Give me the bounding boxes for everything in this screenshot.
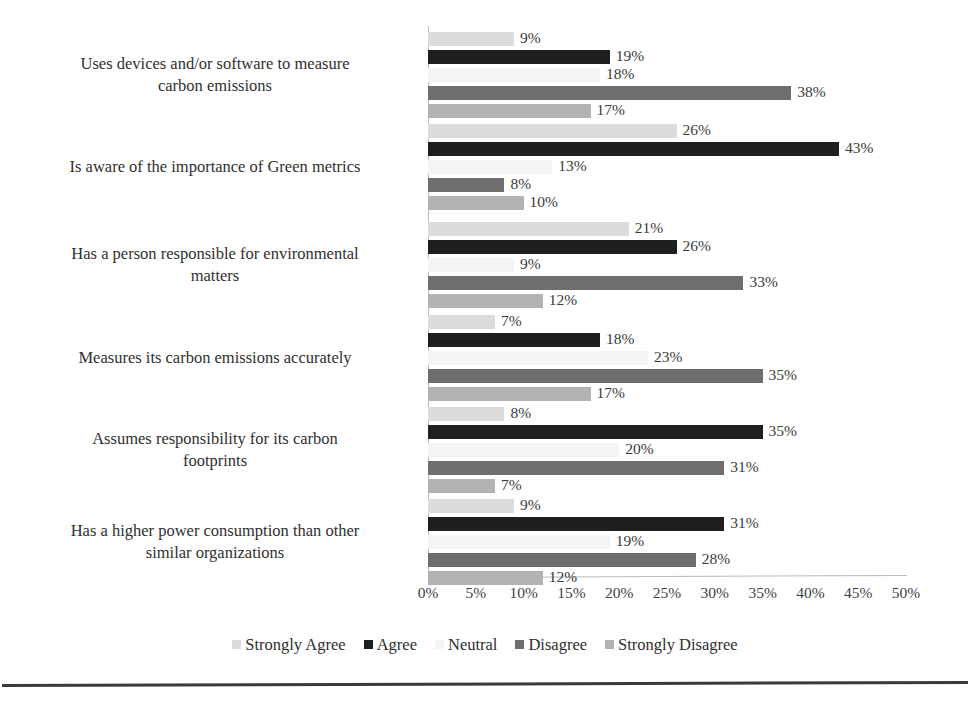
bar-strongly-agree[interactable]	[428, 315, 495, 329]
bar-row: 9%	[428, 499, 906, 513]
bar-disagree[interactable]	[428, 178, 504, 192]
bar-value-label: 31%	[724, 458, 758, 476]
x-tick-label: 25%	[653, 584, 681, 602]
x-tick-label: 35%	[748, 584, 776, 602]
category-label-line: footprints	[20, 450, 410, 472]
legend-swatch-icon	[364, 640, 373, 649]
legend-item-disagree[interactable]: Disagree	[515, 634, 587, 655]
x-axis-tick-labels: 0%5%10%15%20%25%30%35%40%45%50%	[428, 584, 907, 606]
bar-strongly-disagree[interactable]	[428, 479, 495, 493]
bar-row: 33%	[428, 276, 906, 290]
bar-group: 7%18%23%35%17%	[428, 315, 906, 405]
category-label: Assumes responsibility for its carbonfoo…	[20, 428, 410, 472]
legend-label: Disagree	[528, 635, 587, 655]
bar-disagree[interactable]	[428, 461, 724, 475]
category-label-line: carbon emissions	[20, 75, 410, 97]
bar-disagree[interactable]	[428, 369, 763, 383]
bar-row: 28%	[428, 553, 906, 567]
x-tick-label: 50%	[892, 584, 920, 602]
bar-value-label: 18%	[600, 65, 634, 83]
bar-row: 43%	[428, 142, 906, 156]
bar-row: 35%	[428, 425, 906, 439]
bar-agree[interactable]	[428, 240, 677, 254]
bar-strongly-disagree[interactable]	[428, 196, 524, 210]
bar-value-label: 38%	[791, 83, 825, 101]
plot-area: 9%19%18%38%17%26%43%13%8%10%21%26%9%33%1…	[428, 26, 906, 577]
category-label-line: Measures its carbon emissions accurately	[20, 347, 410, 369]
bar-value-label: 10%	[524, 193, 558, 211]
category-label-line: Is aware of the importance of Green metr…	[20, 156, 410, 178]
bar-neutral[interactable]	[428, 258, 514, 272]
legend-label: Agree	[377, 635, 417, 655]
bar-strongly-disagree[interactable]	[428, 104, 591, 118]
bar-agree[interactable]	[428, 517, 724, 531]
chart-legend: Strongly AgreeAgreeNeutralDisagreeStrong…	[0, 634, 970, 655]
bar-neutral[interactable]	[428, 351, 648, 365]
legend-item-neutral[interactable]: Neutral	[435, 634, 497, 655]
bar-row: 8%	[428, 178, 906, 192]
category-label: Has a higher power consumption than othe…	[20, 520, 410, 564]
bar-row: 19%	[428, 50, 906, 64]
bar-agree[interactable]	[428, 142, 839, 156]
legend-swatch-icon	[232, 640, 241, 649]
bar-value-label: 19%	[610, 47, 644, 65]
category-label-line: Has a person responsible for environment…	[20, 243, 410, 265]
bar-group: 21%26%9%33%12%	[428, 222, 906, 312]
bar-agree[interactable]	[428, 50, 610, 64]
x-tick-label: 5%	[465, 584, 486, 602]
bar-strongly-disagree[interactable]	[428, 571, 543, 585]
bar-value-label: 8%	[504, 404, 531, 422]
bar-neutral[interactable]	[428, 160, 552, 174]
x-tick-label: 45%	[844, 584, 872, 602]
page-bottom-rule	[2, 681, 968, 687]
bar-agree[interactable]	[428, 333, 600, 347]
legend-swatch-icon	[515, 640, 524, 649]
bar-row: 23%	[428, 351, 906, 365]
bar-strongly-disagree[interactable]	[428, 387, 591, 401]
bar-value-label: 7%	[495, 312, 522, 330]
bar-value-label: 9%	[514, 255, 541, 273]
bar-value-label: 31%	[724, 514, 758, 532]
bar-value-label: 19%	[610, 532, 644, 550]
bar-row: 35%	[428, 369, 906, 383]
bar-neutral[interactable]	[428, 68, 600, 82]
legend-item-strongly-agree[interactable]: Strongly Agree	[232, 634, 345, 655]
bar-strongly-agree[interactable]	[428, 222, 629, 236]
category-label: Has a person responsible for environment…	[20, 243, 410, 287]
legend-swatch-icon	[435, 640, 444, 649]
bar-agree[interactable]	[428, 425, 763, 439]
bar-value-label: 26%	[677, 121, 711, 139]
legend-label: Strongly Disagree	[618, 635, 738, 655]
bar-neutral[interactable]	[428, 535, 610, 549]
bar-strongly-agree[interactable]	[428, 32, 514, 46]
bar-strongly-disagree[interactable]	[428, 294, 543, 308]
category-label: Measures its carbon emissions accurately	[20, 347, 410, 369]
bar-value-label: 7%	[495, 476, 522, 494]
bar-row: 9%	[428, 32, 906, 46]
bar-value-label: 20%	[619, 440, 653, 458]
bar-disagree[interactable]	[428, 276, 743, 290]
bar-value-label: 13%	[552, 157, 586, 175]
bar-strongly-agree[interactable]	[428, 407, 504, 421]
bar-group: 9%31%19%28%12%	[428, 499, 906, 589]
x-tick-label: 15%	[557, 584, 585, 602]
bar-neutral[interactable]	[428, 443, 619, 457]
category-label: Uses devices and/or software to measurec…	[20, 53, 410, 97]
bar-row: 31%	[428, 461, 906, 475]
legend-item-strongly-disagree[interactable]: Strongly Disagree	[605, 634, 738, 655]
bar-value-label: 33%	[743, 273, 777, 291]
bar-row: 17%	[428, 104, 906, 118]
x-tick-label: 40%	[796, 584, 824, 602]
category-label-line: similar organizations	[20, 542, 410, 564]
bar-strongly-agree[interactable]	[428, 124, 677, 138]
bar-value-label: 43%	[839, 139, 873, 157]
bar-row: 31%	[428, 517, 906, 531]
bar-value-label: 12%	[543, 291, 577, 309]
bar-disagree[interactable]	[428, 86, 791, 100]
bar-row: 12%	[428, 294, 906, 308]
legend-item-agree[interactable]: Agree	[364, 634, 417, 655]
bar-row: 26%	[428, 124, 906, 138]
bar-strongly-agree[interactable]	[428, 499, 514, 513]
bar-disagree[interactable]	[428, 553, 696, 567]
bar-row: 17%	[428, 387, 906, 401]
